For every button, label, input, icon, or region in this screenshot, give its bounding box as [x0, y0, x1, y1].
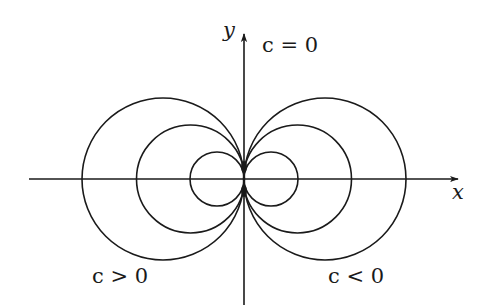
x-axis-label: x [452, 182, 464, 203]
annotation-c-less-0: c < 0 [328, 266, 384, 287]
circle-family-diagram [0, 0, 490, 305]
annotation-c-greater-0: c > 0 [92, 266, 148, 287]
y-axis-label: y [223, 20, 235, 41]
annotation-c-equals-0: c = 0 [262, 35, 318, 56]
